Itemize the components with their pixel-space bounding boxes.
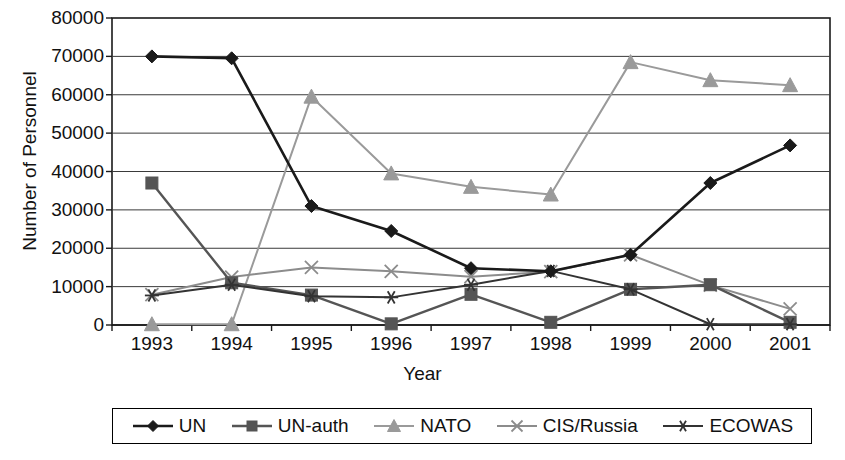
x-axis-tick-label: 2000	[665, 334, 755, 353]
legend-label: UN-auth	[276, 415, 349, 437]
legend-marker-x-icon	[495, 416, 539, 436]
legend-marker-square-icon	[230, 416, 274, 436]
legend-marker-diamond-icon	[131, 416, 175, 436]
legend-item-ecowas[interactable]: ECOWAS	[661, 415, 793, 437]
chart-container: Number of Personnel 01000020000300004000…	[0, 0, 845, 460]
legend-label: CIS/Russia	[541, 415, 638, 437]
marker-square	[704, 279, 716, 291]
x-axis-title: Year	[0, 363, 845, 385]
legend-label: NATO	[418, 415, 471, 437]
x-axis-tick-label: 1995	[266, 334, 356, 353]
x-axis-tick-label: 2001	[745, 334, 835, 353]
marker-square	[226, 277, 238, 289]
x-axis-tick-label: 1998	[506, 334, 596, 353]
marker-diamond	[147, 421, 158, 432]
marker-square	[146, 177, 158, 189]
x-axis-tick-label: 1996	[346, 334, 436, 353]
legend-item-un-auth[interactable]: UN-auth	[230, 415, 349, 437]
x-axis-tick-label: 1997	[426, 334, 516, 353]
x-axis-title-text: Year	[403, 363, 441, 384]
x-axis-tick-label: 1994	[187, 334, 277, 353]
marker-square	[465, 288, 477, 300]
legend-marker-triangle-icon	[372, 416, 416, 436]
marker-square	[385, 318, 397, 330]
marker-square	[247, 421, 257, 431]
marker-square	[784, 316, 796, 328]
legend-item-nato[interactable]: NATO	[372, 415, 471, 437]
legend-label: ECOWAS	[707, 415, 793, 437]
x-axis-tick-label: 1999	[586, 334, 676, 353]
legend-marker-asterisk-icon	[661, 416, 705, 436]
legend-item-cis-russia[interactable]: CIS/Russia	[495, 415, 638, 437]
legend-label: UN	[177, 415, 206, 437]
marker-square	[545, 316, 557, 328]
chart-legend: UNUN-authNATOCIS/RussiaECOWAS	[112, 408, 812, 444]
legend-item-un[interactable]: UN	[131, 415, 206, 437]
x-axis-tick-label: 1993	[107, 334, 197, 353]
